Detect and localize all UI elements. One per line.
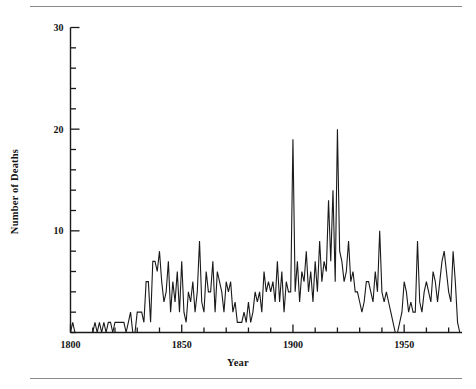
x-axis-tick-label: 1850: [172, 339, 192, 350]
x-axis-tick-label: 1950: [394, 339, 414, 350]
data-series-line: [71, 129, 460, 332]
line-chart-plot: 1020301800185019001950: [0, 0, 476, 389]
tick-marks-group: [71, 28, 449, 333]
x-axis-tick-label: 1900: [283, 339, 303, 350]
y-axis-tick-label: 10: [54, 225, 64, 236]
y-axis-label: Number of Deaths: [9, 132, 20, 252]
y-axis-tick-label: 30: [54, 22, 64, 33]
x-axis-tick-label: 1800: [61, 339, 81, 350]
y-axis-tick-label: 20: [54, 124, 64, 135]
tick-labels-group: 1020301800185019001950: [54, 22, 415, 349]
figure-container: 1020301800185019001950 Number of Deaths …: [0, 0, 476, 389]
x-axis-label: Year: [0, 357, 476, 368]
